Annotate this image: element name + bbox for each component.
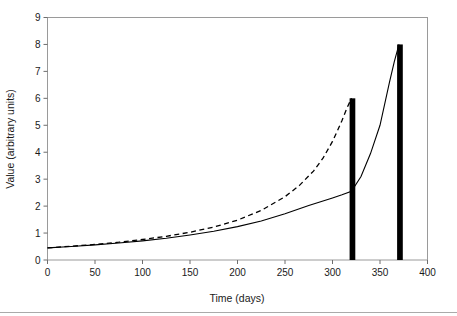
x-tick-label: 0 [45,267,51,278]
x-tick-label: 100 [134,267,151,278]
x-tick-label: 200 [229,267,246,278]
x-tick-label: 150 [182,267,199,278]
y-tick-label: 1 [35,228,41,239]
y-tick-label: 3 [35,174,41,185]
y-tick-label: 4 [35,147,41,158]
y-axis-title: Value (arbitrary units) [4,89,16,189]
x-tick-label: 350 [372,267,389,278]
y-tick-label: 7 [35,66,41,77]
y-tick-label: 0 [35,255,41,266]
x-axis-title: Time (days) [209,292,264,304]
x-tick-label: 400 [419,267,436,278]
x-tick-label: 300 [324,267,341,278]
y-tick-label: 9 [35,12,41,23]
x-tick-label: 250 [277,267,294,278]
chart-figure: 0123456789 050100150200250300350400 Time… [0,0,457,316]
bar-2 [397,44,403,260]
x-tick-label: 50 [89,267,101,278]
y-tick-label: 2 [35,201,41,212]
y-tick-label: 8 [35,39,41,50]
bar-1 [350,98,356,260]
y-tick-label: 6 [35,93,41,104]
y-tick-label: 5 [35,120,41,131]
